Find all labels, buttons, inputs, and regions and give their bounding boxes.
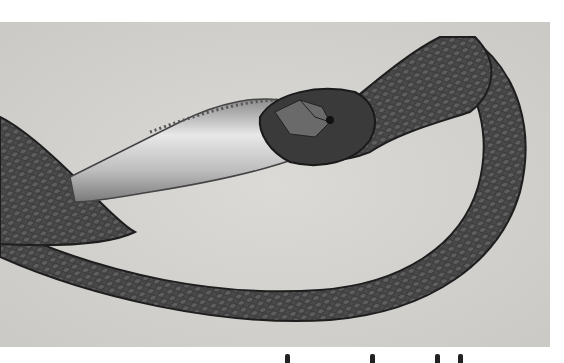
snake-eye xyxy=(326,116,334,124)
truncated-caption xyxy=(0,352,564,363)
snake-fish-photo xyxy=(0,22,550,347)
photo-illustration xyxy=(0,22,550,347)
snake-head xyxy=(260,89,375,165)
